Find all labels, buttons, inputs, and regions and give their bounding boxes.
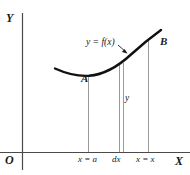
- tick-label-x-equals-a: x = a: [78, 155, 97, 164]
- curve-equation-label: y = f(x): [86, 38, 115, 48]
- origin-label: O: [5, 154, 14, 166]
- tick-label-x-equals-x: x = x: [136, 155, 155, 164]
- ordinate-y-label: y: [125, 94, 129, 104]
- tick-label-dx: dx: [112, 155, 121, 164]
- function-graph-figure: Y X O A B y = f(x) y x = a dx x = x: [0, 0, 190, 175]
- x-axis-label: X: [175, 155, 183, 167]
- point-b-label: B: [160, 36, 167, 47]
- point-a-label: A: [81, 73, 88, 84]
- graph-canvas: [0, 0, 190, 175]
- y-axis-label: Y: [6, 12, 13, 24]
